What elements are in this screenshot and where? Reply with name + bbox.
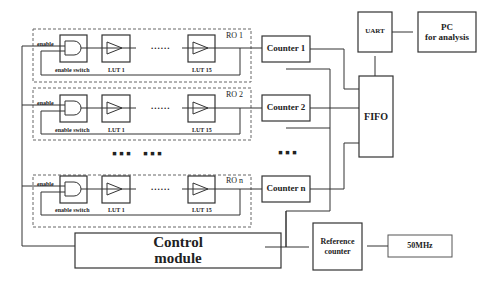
counter-2-label: Counter 2 bbox=[262, 103, 310, 112]
lut-first-label: LUT 1 bbox=[108, 67, 125, 73]
counter-n-label: Counter n bbox=[262, 184, 310, 193]
reference-counter-label: Reference bbox=[313, 238, 362, 246]
enable-switch-label: enable switch bbox=[55, 67, 90, 73]
enable-label: enable bbox=[37, 181, 54, 187]
ro-n-dashed-box bbox=[33, 175, 251, 227]
ro-gap-ellipsis: ▪▪▪ bbox=[112, 147, 133, 161]
lut-chain-ellipsis: ...... bbox=[151, 42, 171, 51]
ro-label: RO 2 bbox=[226, 91, 243, 99]
pc-label: PC bbox=[418, 23, 476, 32]
and-gate-icon bbox=[65, 41, 81, 55]
control-module-label: Control bbox=[75, 235, 281, 250]
ro-label: RO n bbox=[226, 177, 243, 185]
lut-last-label: LUT 15 bbox=[192, 67, 212, 73]
ro-label: RO 1 bbox=[226, 32, 243, 40]
enable-bus bbox=[22, 46, 75, 246]
enable-label: enable bbox=[37, 100, 54, 106]
lut-last-label: LUT 15 bbox=[192, 127, 212, 133]
lut-last-label: LUT 15 bbox=[192, 207, 212, 213]
counter-gap-ellipsis: ▪▪▪ bbox=[278, 146, 299, 160]
enable-switch-label: enable switch bbox=[55, 207, 90, 213]
uart-label: UART bbox=[358, 28, 392, 35]
control-module-label-line2: module bbox=[75, 251, 281, 266]
lut-first-label: LUT 1 bbox=[108, 127, 125, 133]
enable-switch-label: enable switch bbox=[55, 127, 90, 133]
counter-1-label: Counter 1 bbox=[262, 44, 310, 53]
lut-first-label: LUT 1 bbox=[108, 207, 125, 213]
pc-subtitle: for analysis bbox=[418, 33, 476, 42]
lut-chain-ellipsis: ...... bbox=[151, 102, 171, 111]
clock-label: 50MHz bbox=[388, 242, 452, 250]
fifo-label: FIFO bbox=[359, 112, 393, 122]
enable-label: enable bbox=[37, 41, 54, 47]
lut-chain-ellipsis: ...... bbox=[151, 183, 171, 192]
and-gate-icon bbox=[65, 182, 81, 196]
reference-counter-label-line2: counter bbox=[313, 248, 362, 256]
and-gate-icon bbox=[65, 101, 81, 115]
ro-gap-ellipsis: ▪▪▪ bbox=[143, 147, 164, 161]
